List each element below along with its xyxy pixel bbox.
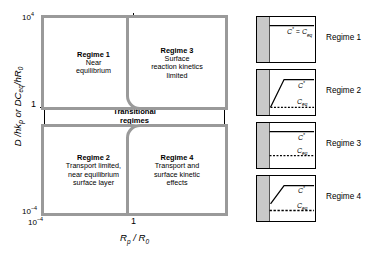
panel-2-label: Regime 2 [326, 86, 361, 95]
regime-4-region[interactable]: Regime 4 Transport and surface kinetic e… [126, 124, 228, 216]
phase-map-plot: 104 1 10−4 10−4 1 D /hkp or DCeq/hR0 Rp … [0, 0, 240, 262]
panel-row-2: C* Ceq Regime 2 [246, 69, 382, 116]
regime-3-region[interactable]: Regime 3 Surface reaction kinetics limit… [126, 15, 228, 110]
panel-4-box: C* Ceq [256, 175, 316, 222]
y-tick-label-top: 104 [22, 11, 34, 22]
panel-2-box: C* Ceq [256, 69, 316, 116]
x-tick-label-left: 10−4 [28, 216, 43, 227]
panel-4-label: Regime 4 [326, 192, 361, 201]
panel-row-4: C* Ceq Regime 4 [246, 175, 382, 222]
figure-root: 104 1 10−4 10−4 1 D /hkp or DCeq/hR0 Rp … [0, 0, 382, 262]
panel-1-curve-label: C* = Ceq [287, 27, 312, 38]
panel-2-concentration-profile [257, 70, 315, 115]
plot-frame: Transitional regimes Regime 1 Near equil… [44, 18, 225, 213]
panel-4-curve-label: C* [298, 186, 305, 194]
panel-3-dashed-label: Ceq [297, 147, 307, 156]
x-tick-label-mid: 1 [131, 216, 136, 226]
regime-4-desc-line3: effects [132, 179, 222, 188]
panel-row-1: C* = Ceq Regime 1 [246, 16, 382, 63]
y-axis-title: D /hkp or DCeq/hR0 [12, 21, 25, 191]
regime-3-desc-line3: limited [132, 71, 222, 80]
panel-1-concentration-profile [257, 17, 315, 62]
x-axis-title: Rp / R0 [44, 232, 225, 245]
panel-4-dashed-label: Ceq [297, 202, 307, 211]
panel-3-box: C* Ceq [256, 122, 316, 169]
panel-3-label: Regime 3 [326, 139, 361, 148]
panel-1-box: C* = Ceq [256, 16, 316, 63]
panel-3-concentration-profile [257, 123, 315, 168]
y-tick-label-bottom: 10−4 [22, 205, 37, 216]
y-tick-label-mid: 1 [31, 99, 36, 109]
panel-2-curve-label: C* [298, 81, 305, 89]
panel-4-concentration-profile [257, 176, 315, 221]
panel-1-label: Regime 1 [326, 33, 361, 42]
panel-2-dashed-label: Ceq [297, 98, 307, 107]
panel-3-curve-label: C* [298, 133, 305, 141]
regime-schematic-panels: C* = Ceq Regime 1 C* Ceq Regime 2 [246, 0, 382, 262]
panel-row-3: C* Ceq Regime 3 [246, 122, 382, 169]
